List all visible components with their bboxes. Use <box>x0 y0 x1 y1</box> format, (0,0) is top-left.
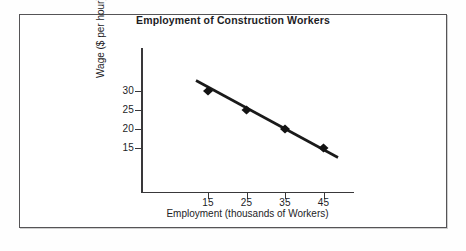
plot-area: 30 25 20 15 15 25 35 45 Employment (thou… <box>0 0 466 251</box>
series-line <box>196 81 338 158</box>
series-layer <box>0 0 466 251</box>
figure-root: Employment of Construction Workers 30 25… <box>0 0 466 251</box>
